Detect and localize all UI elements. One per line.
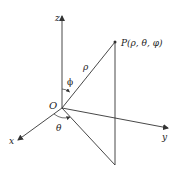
theta-label: θ: [56, 123, 62, 133]
point-p: [114, 41, 117, 44]
rho-label: ρ: [82, 62, 89, 72]
phi-arc: [62, 89, 70, 92]
point-label: P(ρ, θ, φ): [120, 38, 163, 48]
origin-label: O: [49, 100, 57, 111]
x-axis-label: x: [9, 136, 14, 146]
y-axis-label: y: [161, 132, 168, 142]
spherical-coordinates-diagram: z y x O P(ρ, θ, φ) ρ ϕ θ: [0, 0, 180, 179]
diagram-svg: z y x O P(ρ, θ, φ) ρ ϕ θ: [0, 0, 180, 179]
rho-segment: [62, 42, 115, 108]
z-axis-label: z: [54, 13, 60, 23]
phi-label: ϕ: [67, 77, 73, 87]
